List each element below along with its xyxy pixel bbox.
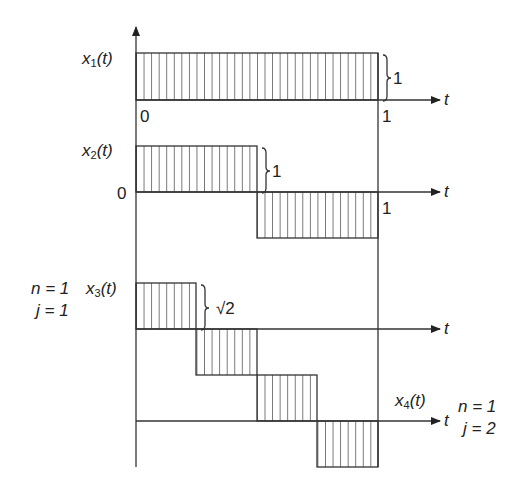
x4-t-label: t (444, 412, 449, 429)
x1-pulse (136, 53, 378, 100)
x3-n-param: n = 1 (31, 280, 69, 297)
x3-t-label: t (444, 320, 449, 337)
x1-amplitude-label: 1 (393, 70, 402, 87)
x3-j-param: j = 1 (36, 302, 69, 319)
x4-positive-pulse (257, 375, 317, 421)
x2-label: x2(t) (82, 142, 113, 161)
x1-origin-label: 0 (140, 108, 149, 125)
x2-negative-pulse (257, 192, 378, 238)
x3-label: x3(t) (86, 280, 117, 299)
x3-amplitude-label: √2 (216, 300, 235, 317)
x2-t-label: t (444, 183, 449, 200)
x4-label: x4(t) (395, 392, 426, 411)
x3-positive-pulse (136, 283, 196, 329)
x4-negative-pulse (317, 421, 378, 467)
x1-label: x1(t) (82, 50, 113, 69)
x1-end-label: 1 (382, 108, 391, 125)
haar-waveform-diagram: x1(t) 0 1 1 t x2(t) 0 1 1 t n = 1 j = 1 … (0, 0, 526, 489)
x3-negative-pulse (196, 329, 257, 375)
x4-j-param: j = 2 (463, 420, 496, 437)
x2-end-label: 1 (382, 200, 391, 217)
x2-origin-label: 0 (117, 185, 126, 202)
x3-brace-icon (201, 285, 209, 330)
x2-amplitude-label: 1 (272, 163, 281, 180)
x4-n-param: n = 1 (458, 398, 496, 415)
x2-positive-pulse (136, 146, 257, 192)
x1-t-label: t (444, 91, 449, 108)
x2-brace-icon (262, 148, 270, 193)
x1-brace-icon (383, 55, 391, 101)
